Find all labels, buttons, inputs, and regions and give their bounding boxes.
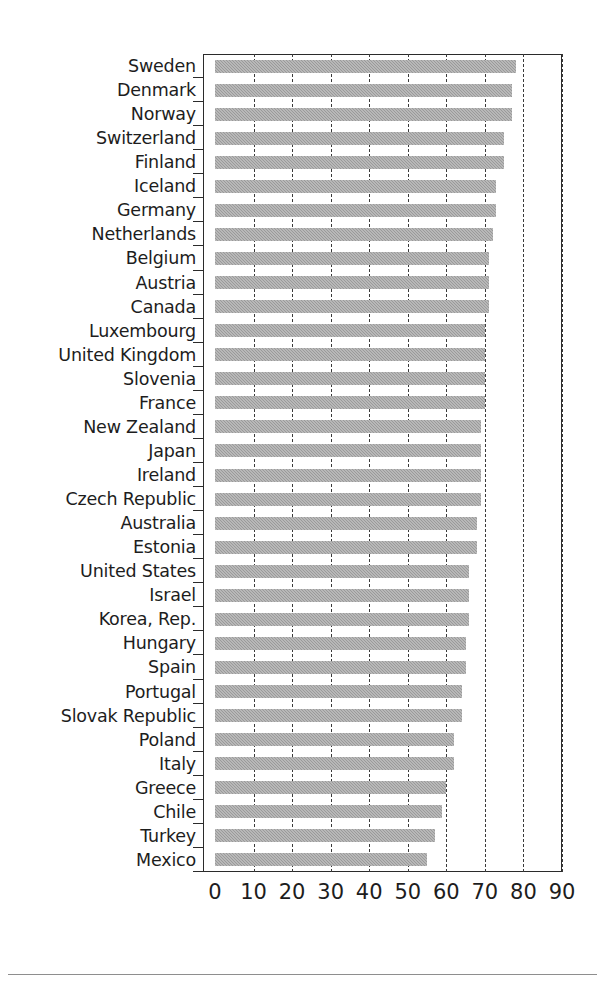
bar [215, 252, 489, 265]
category-label: Japan [148, 439, 196, 463]
category-label: Korea, Rep. [99, 607, 196, 631]
bar-row: Chile [0, 800, 605, 824]
bar-row: Denmark [0, 78, 605, 102]
bar-row: France [0, 391, 605, 415]
category-label: Germany [117, 198, 196, 222]
bar [215, 396, 485, 409]
bar [215, 829, 435, 842]
bar [215, 493, 481, 506]
x-tick-label: 40 [356, 878, 383, 906]
category-label: Czech Republic [66, 487, 196, 511]
x-tick-label: 70 [472, 878, 499, 906]
bar-row: Netherlands [0, 222, 605, 246]
x-tick-label: 50 [394, 878, 421, 906]
bar-row: Belgium [0, 246, 605, 270]
bar [215, 517, 477, 530]
bar-row: Switzerland [0, 126, 605, 150]
bar-row: Austria [0, 271, 605, 295]
bottom-rule [8, 974, 597, 975]
category-label: Slovak Republic [61, 704, 196, 728]
bar [215, 228, 493, 241]
bar-row: Japan [0, 439, 605, 463]
category-label: Sweden [128, 54, 196, 78]
bar [215, 685, 462, 698]
bar [215, 709, 462, 722]
category-label: Canada [131, 295, 196, 319]
category-label: Spain [148, 655, 196, 679]
x-tick-label: 10 [240, 878, 267, 906]
bar [215, 324, 485, 337]
bar [215, 853, 427, 866]
bar-row: Korea, Rep. [0, 607, 605, 631]
y-tick [193, 871, 203, 872]
category-label: Belgium [126, 246, 196, 270]
bar-row: Australia [0, 511, 605, 535]
category-label: Austria [136, 271, 196, 295]
bar-row: Norway [0, 102, 605, 126]
bar [215, 733, 454, 746]
category-label: Iceland [134, 174, 196, 198]
bar-row: Israel [0, 583, 605, 607]
bar [215, 420, 481, 433]
bar [215, 613, 469, 626]
bar [215, 348, 485, 361]
bar [215, 805, 442, 818]
bar-row: Canada [0, 295, 605, 319]
bar-row: Greece [0, 776, 605, 800]
bar-row: Italy [0, 752, 605, 776]
bar-row: Hungary [0, 631, 605, 655]
bar-row: Slovak Republic [0, 704, 605, 728]
bar-row: Mexico [0, 848, 605, 872]
bar-row: Turkey [0, 824, 605, 848]
category-label: Luxembourg [89, 319, 196, 343]
bar [215, 108, 512, 121]
bar [215, 541, 477, 554]
bar-row: Iceland [0, 174, 605, 198]
bar-row: Spain [0, 655, 605, 679]
bar [215, 781, 446, 794]
category-label: United States [80, 559, 196, 583]
bar [215, 276, 489, 289]
category-label: Mexico [136, 848, 196, 872]
category-label: Slovenia [123, 367, 196, 391]
bar-row: United Kingdom [0, 343, 605, 367]
category-label: Turkey [140, 824, 196, 848]
category-label: Portugal [125, 680, 196, 704]
bar [215, 637, 466, 650]
bar-row: Czech Republic [0, 487, 605, 511]
bar-row: Slovenia [0, 367, 605, 391]
bar [215, 84, 512, 97]
category-label: United Kingdom [58, 343, 196, 367]
category-label: France [139, 391, 196, 415]
bar [215, 60, 516, 73]
bar [215, 469, 481, 482]
bar [215, 444, 481, 457]
bar [215, 180, 496, 193]
category-label: Norway [131, 102, 196, 126]
bar [215, 661, 466, 674]
bar-row: Estonia [0, 535, 605, 559]
bar [215, 204, 496, 217]
bar [215, 132, 504, 145]
bar [215, 156, 504, 169]
bar-row: United States [0, 559, 605, 583]
category-label: Finland [135, 150, 196, 174]
bar-row: Finland [0, 150, 605, 174]
category-label: Chile [153, 800, 196, 824]
x-tick-label: 90 [549, 878, 576, 906]
bar-row: Germany [0, 198, 605, 222]
category-label: New Zealand [83, 415, 196, 439]
category-label: Hungary [123, 631, 196, 655]
bar [215, 565, 469, 578]
x-axis: 0102030405060708090 [0, 878, 605, 912]
category-label: Italy [159, 752, 196, 776]
bar [215, 589, 469, 602]
category-label: Ireland [137, 463, 196, 487]
x-tick-label: 60 [433, 878, 460, 906]
x-tick-label: 0 [208, 878, 221, 906]
category-label: Poland [139, 728, 196, 752]
bar-row: Poland [0, 728, 605, 752]
x-tick-label: 80 [510, 878, 537, 906]
x-tick-label: 30 [317, 878, 344, 906]
bar-row: New Zealand [0, 415, 605, 439]
